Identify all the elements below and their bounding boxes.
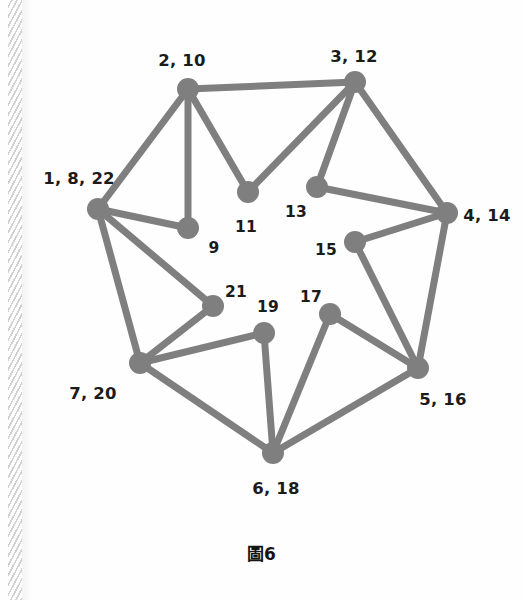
graph-edge (98, 89, 188, 209)
graph-edge (248, 82, 355, 192)
node-label: 5, 16 (419, 392, 466, 409)
graph-figure: 1, 8, 222, 103, 124, 145, 166, 187, 2091… (0, 0, 523, 520)
graph-node (177, 217, 199, 239)
node-label: 2, 10 (158, 53, 205, 70)
node-label: 4, 14 (463, 208, 510, 225)
node-label: 13 (285, 205, 307, 221)
graph-canvas (0, 0, 523, 520)
graph-node (319, 303, 341, 325)
graph-edge (188, 89, 248, 192)
graph-node (177, 78, 199, 100)
graph-edge (273, 314, 330, 453)
graph-node (262, 442, 284, 464)
node-label: 3, 12 (330, 49, 377, 66)
graph-edge (418, 213, 447, 368)
graph-node (87, 198, 109, 220)
graph-node (306, 176, 328, 198)
graph-edge (188, 82, 355, 89)
node-label: 9 (209, 241, 220, 257)
figure-caption: 圖6 (0, 540, 523, 565)
graph-node (202, 295, 224, 317)
node-label: 15 (315, 243, 337, 259)
graph-node (407, 357, 429, 379)
graph-edge (273, 368, 418, 453)
edge-layer (98, 82, 447, 453)
figure-caption-text: 圖6 (247, 544, 277, 564)
graph-edge (355, 82, 447, 213)
node-label: 17 (300, 290, 322, 306)
graph-node (436, 202, 458, 224)
graph-edge (140, 363, 273, 453)
node-label: 6, 18 (252, 481, 299, 498)
graph-edge (264, 333, 273, 453)
graph-node (237, 181, 259, 203)
graph-node (344, 71, 366, 93)
graph-node (344, 231, 366, 253)
node-label: 7, 20 (69, 386, 116, 403)
node-label: 19 (257, 300, 279, 316)
node-label: 1, 8, 22 (43, 171, 115, 188)
graph-edge (98, 209, 140, 363)
graph-node (253, 322, 275, 344)
node-label: 21 (225, 285, 247, 301)
graph-edge (355, 213, 447, 242)
graph-node (129, 352, 151, 374)
node-label: 11 (235, 220, 257, 236)
